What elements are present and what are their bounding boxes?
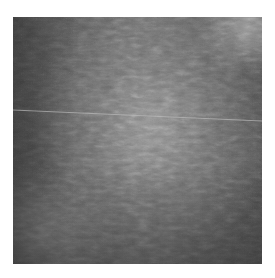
horizontal-scan-line bbox=[13, 17, 262, 264]
image-description: Grayscale textured microscopy-style phot… bbox=[0, 0, 1, 1]
grayscale-photo bbox=[13, 17, 262, 264]
